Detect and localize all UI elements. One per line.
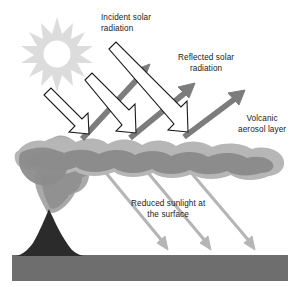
- label-reflected-line2: radiation: [178, 64, 234, 75]
- volcanic-aerosol-layer: [15, 137, 285, 185]
- label-reflected-solar-radiation: Reflected solar radiation: [178, 53, 234, 74]
- volcanic-aerosol-diagram: Incident solar radiation Reflected solar…: [0, 0, 301, 287]
- ground-surface: [12, 255, 288, 281]
- label-incident-line1: Incident solar: [101, 13, 151, 24]
- label-reduced-line1: Reduced sunlight at: [131, 199, 205, 210]
- label-incident-solar-radiation: Incident solar radiation: [101, 13, 151, 34]
- reflected-arrow-3: [184, 90, 245, 137]
- sun-core: [44, 41, 71, 68]
- label-aerosol-line2: aerosol layer: [238, 125, 286, 136]
- label-reduced-line2: the surface: [131, 210, 205, 221]
- sun-icon: [21, 17, 93, 92]
- label-volcanic-aerosol-layer: Volcanic aerosol layer: [238, 114, 286, 135]
- diagram-canvas: [0, 0, 301, 287]
- label-incident-line2: radiation: [101, 24, 151, 35]
- volcano-cone: [16, 209, 86, 256]
- label-aerosol-line1: Volcanic: [238, 114, 286, 125]
- label-reduced-sunlight: Reduced sunlight at the surface: [131, 199, 205, 220]
- label-reflected-line1: Reflected solar: [178, 53, 234, 64]
- incident-arrow-1: [44, 88, 89, 134]
